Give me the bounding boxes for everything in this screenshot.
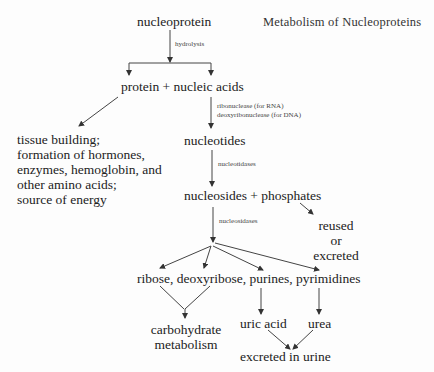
label-hydrolysis: hydrolysis: [175, 41, 204, 48]
label-deoxyribonuclease: deoxyribonuclease (for DNA): [217, 112, 301, 119]
label-nucleotidases: nucleotidases: [218, 161, 256, 168]
node-products: ribose, deoxyribose, purines, pyrimidine…: [137, 272, 360, 286]
node-nucleosides-phosphates: nucleosides + phosphates: [184, 189, 321, 203]
node-excreted-in-urine: excreted in urine: [240, 350, 331, 364]
node-uric-acid: uric acid: [240, 317, 287, 331]
node-protein-fate: tissue building; formation of hormones, …: [17, 132, 162, 207]
node-reused-excreted: reused or excreted: [306, 218, 366, 263]
node-nucleoprotein: nucleoprotein: [137, 15, 211, 29]
node-nucleotides: nucleotides: [184, 134, 245, 148]
node-carbohydrate-metabolism: carbohydrate metabolism: [145, 322, 227, 352]
label-ribonuclease: ribonuclease (for RNA): [217, 103, 283, 110]
node-protein-nucleic-acids: protein + nucleic acids: [121, 80, 244, 94]
label-nucleosidases: nucleosidases: [219, 218, 258, 225]
node-urea: urea: [308, 317, 331, 331]
diagram-title: Metabolism of Nucleoproteins: [263, 16, 421, 29]
